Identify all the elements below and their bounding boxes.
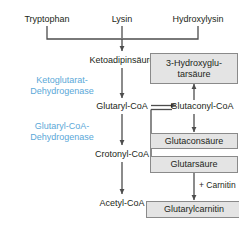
node-glutaryl-coa: Glutaryl-CoA: [96, 101, 148, 111]
enzyme-glutaryl-coa-dehydrogenase-line2: Dehydrogenase: [30, 132, 94, 143]
node-ketoadipinsaeure: Ketoadipinsäure: [89, 55, 154, 65]
marker-glutaconsaeure: Glutaconsäure: [150, 133, 238, 149]
label-carnitin: + Carnitin: [199, 180, 236, 190]
node-acetyl-coa: Acetyl-CoA: [99, 198, 144, 208]
marker-glutarsaeure: Glutarsäure: [150, 156, 238, 173]
node-tryptophan: Tryptophan: [24, 14, 69, 24]
enzyme-glutaryl-coa-dehydrogenase: Glutaryl-CoA- Dehydrogenase: [30, 121, 94, 142]
marker-3-hydroxyglutarsaeure-line1: 3-Hydroxyglu-: [166, 58, 222, 69]
marker-3-hydroxyglutarsaeure: 3-Hydroxyglu- tarsäure: [150, 53, 238, 84]
enzyme-ketoglutarat-dehydrogenase-line2: Dehydrogenase: [30, 86, 94, 97]
node-hydroxylysin: Hydroxylysin: [172, 14, 223, 24]
pathway-arrows: [0, 0, 239, 230]
node-crotonyl-coa: Crotonyl-CoA: [95, 149, 149, 159]
marker-glutarylcarnitin: Glutarylcarnitin: [146, 201, 239, 218]
metabolic-pathway-diagram: Tryptophan Lysin Hydroxylysin Ketoadipin…: [0, 0, 239, 230]
marker-3-hydroxyglutarsaeure-line2: tarsäure: [177, 69, 210, 80]
node-lysin: Lysin: [112, 14, 133, 24]
node-glutaconyl-coa: Glutaconyl-CoA: [170, 101, 233, 111]
enzyme-glutaryl-coa-dehydrogenase-line1: Glutaryl-CoA-: [30, 121, 94, 132]
enzyme-ketoglutarat-dehydrogenase: Ketoglutarat- Dehydrogenase: [30, 75, 94, 96]
enzyme-ketoglutarat-dehydrogenase-line1: Ketoglutarat-: [30, 75, 94, 86]
